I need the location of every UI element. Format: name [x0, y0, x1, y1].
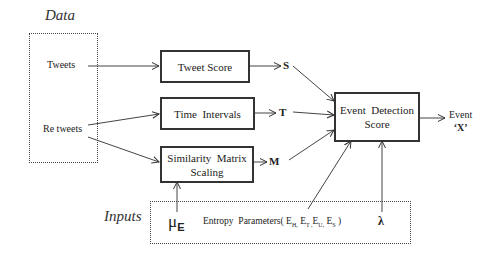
similarity-label-line1: Similarity Matrix — [167, 151, 246, 165]
tweet-score-label: Tweet Score — [178, 60, 233, 74]
event-detection-line1: Event Detection — [340, 103, 414, 117]
tweets-node: Tweets — [47, 59, 75, 70]
time-intervals-label: Time Intervals — [174, 107, 241, 121]
entropy-term-u: EU, — [313, 216, 325, 226]
output-t: T — [279, 106, 286, 118]
entropy-parameters: Entropy Parameters( EH, ET ,EU, ES ) — [203, 216, 341, 228]
event-x-output: Event ‘X’ — [449, 108, 472, 134]
entropy-suffix: ) — [338, 216, 341, 226]
entropy-prefix: Entropy Parameters( — [203, 216, 284, 226]
event-x-line2: ‘X’ — [449, 121, 472, 134]
output-m: M — [269, 155, 279, 167]
entropy-term-t: ET , — [300, 216, 312, 226]
data-section-title: Data — [45, 7, 75, 24]
data-group-box — [29, 33, 98, 163]
output-s: S — [283, 59, 289, 71]
mu-subscript: E — [177, 221, 184, 233]
inputs-section-title: Inputs — [104, 208, 142, 225]
similarity-label-line2: Scaling — [191, 165, 224, 179]
event-detection-line2: Score — [364, 117, 389, 131]
lambda-param: λ — [378, 214, 384, 229]
similarity-matrix-box: Similarity Matrix Scaling — [160, 146, 254, 183]
entropy-term-s: ES — [327, 216, 336, 226]
diagram-canvas: Data Tweets Re tweets Tweet Score Time I… — [0, 0, 494, 258]
mu-symbol: μ — [168, 212, 177, 231]
retweets-node: Re tweets — [43, 123, 82, 134]
entropy-term-h: EH, — [286, 216, 298, 226]
event-x-line1: Event — [449, 108, 472, 121]
time-intervals-box: Time Intervals — [160, 97, 255, 130]
tweet-score-box: Tweet Score — [160, 50, 250, 83]
mu-e-param: μE — [168, 212, 184, 232]
event-detection-box: Event Detection Score — [334, 92, 420, 142]
